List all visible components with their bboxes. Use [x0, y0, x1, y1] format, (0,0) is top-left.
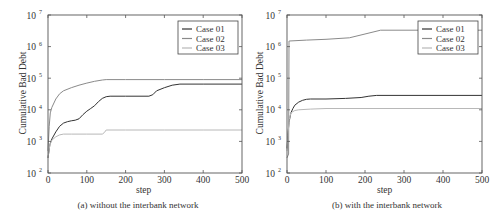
chart-b-y-axis-label: Cumulative Bad Debt: [255, 38, 265, 148]
y-tick-label: 10: [266, 42, 276, 52]
series-lines: [48, 80, 242, 158]
x-tick-label: 400: [436, 175, 451, 185]
y-tick-exponent: 7: [278, 9, 281, 15]
x-tick-label: 300: [157, 175, 172, 185]
chart-a-x-axis-label: step: [136, 185, 151, 195]
x-tick-label: 100: [80, 175, 95, 185]
legend: Case 01Case 02Case 03: [418, 21, 478, 54]
series-line-case-03: [287, 109, 482, 151]
x-tick-label: 100: [319, 175, 334, 185]
chart-panel-b: 0100200300400500102103104105106107Case 0…: [251, 0, 503, 223]
chart-b-caption: (b) with the interbank network: [261, 200, 503, 210]
y-tick-label: 10: [266, 11, 276, 21]
legend-entry-label: Case 02: [196, 34, 225, 44]
chart-a-caption: (a) without the interbank network: [12, 200, 264, 210]
x-tick-label: 200: [118, 175, 133, 185]
y-tick-label: 10: [27, 169, 37, 179]
y-tick-exponent: 4: [39, 104, 42, 110]
y-tick-exponent: 2: [39, 167, 42, 173]
legend-entry-label: Case 03: [436, 43, 465, 53]
x-tick-label: 500: [475, 175, 490, 185]
series-line-case-03: [48, 130, 242, 158]
y-tick-label: 10: [266, 105, 276, 115]
y-tick-label: 10: [27, 11, 37, 21]
x-tick-label: 400: [196, 175, 211, 185]
y-tick-exponent: 7: [39, 9, 42, 15]
x-tick-label: 0: [285, 175, 290, 185]
y-tick-exponent: 2: [278, 167, 281, 173]
y-tick-exponent: 5: [39, 72, 42, 78]
series-line-case-02: [48, 80, 242, 151]
legend-entry-label: Case 01: [196, 24, 225, 34]
y-tick-label: 10: [266, 137, 276, 147]
legend-entry-label: Case 02: [436, 34, 465, 44]
y-tick-label: 10: [266, 74, 276, 84]
legend-entry-label: Case 01: [436, 24, 465, 34]
y-tick-exponent: 6: [278, 41, 281, 47]
chart-b-x-axis-label: step: [377, 185, 392, 195]
y-tick-label: 10: [266, 169, 276, 179]
chart-panel-a: 0100200300400500102103104105106107Case 0…: [0, 0, 252, 223]
x-tick-label: 0: [46, 175, 51, 185]
y-tick-exponent: 3: [278, 135, 281, 141]
x-tick-label: 300: [397, 175, 412, 185]
chart-a-y-axis-label: Cumulative Bad Debt: [18, 38, 28, 148]
y-tick-exponent: 5: [278, 72, 281, 78]
y-tick-exponent: 3: [39, 135, 42, 141]
y-tick-exponent: 4: [278, 104, 281, 110]
legend: Case 01Case 02Case 03: [178, 21, 238, 54]
x-tick-label: 500: [235, 175, 250, 185]
series-line-case-01: [48, 84, 242, 158]
x-tick-label: 200: [358, 175, 373, 185]
series-line-case-01: [287, 95, 482, 148]
chart-a-plot: 0100200300400500102103104105106107Case 0…: [0, 0, 252, 223]
y-tick-exponent: 6: [39, 41, 42, 47]
legend-entry-label: Case 03: [196, 43, 225, 53]
